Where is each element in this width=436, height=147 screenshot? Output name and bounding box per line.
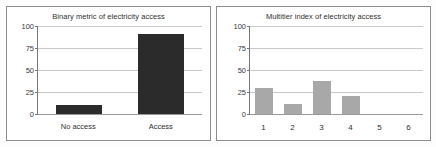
- bar-access[interactable]: [138, 34, 184, 114]
- x-axis-labels: No accessAccess: [37, 122, 202, 131]
- y-tick-mark-0: [35, 114, 38, 115]
- gridline-0: [250, 114, 423, 115]
- chart-title: Binary metric of electricity access: [7, 12, 210, 21]
- bar-slot: [279, 26, 308, 114]
- y-tick-label-75: 75: [26, 44, 34, 53]
- bar-slot: [308, 26, 337, 114]
- x-axis-label: 1: [249, 123, 278, 132]
- bar-group: [38, 26, 202, 114]
- y-tick-label-50: 50: [26, 66, 34, 75]
- chart-panel-multitier: Multitier index of electricity access 02…: [216, 6, 431, 141]
- chart-title: Multitier index of electricity access: [217, 12, 430, 21]
- y-tick-label-0: 0: [30, 110, 34, 119]
- plot-area: 0255075100: [37, 26, 202, 115]
- chart-panel-binary: Binary metric of electricity access 0255…: [6, 6, 211, 141]
- bar-slot: [365, 26, 394, 114]
- x-axis-label: 6: [394, 123, 423, 132]
- figure-container: Binary metric of electricity access 0255…: [0, 0, 436, 147]
- x-axis-label: 2: [278, 123, 307, 132]
- y-tick-label-75: 75: [238, 44, 246, 53]
- bar-3[interactable]: [313, 81, 331, 114]
- y-tick-label-100: 100: [21, 22, 34, 31]
- x-axis-label: 5: [365, 123, 394, 132]
- bar-slot: [250, 26, 279, 114]
- bar-slot: [336, 26, 365, 114]
- bar-slot: [394, 26, 423, 114]
- y-tick-label-25: 25: [26, 88, 34, 97]
- gridline-0: [38, 114, 202, 115]
- y-tick-label-100: 100: [233, 22, 246, 31]
- bar-4[interactable]: [342, 96, 360, 114]
- x-axis-label: 4: [336, 123, 365, 132]
- bar-group: [250, 26, 423, 114]
- bar-slot: [38, 26, 120, 114]
- y-tick-label-25: 25: [238, 88, 246, 97]
- y-tick-label-50: 50: [238, 66, 246, 75]
- multitier-chart: Multitier index of electricity access 02…: [217, 7, 430, 140]
- x-axis-labels: 123456: [249, 123, 423, 132]
- bar-no-access[interactable]: [56, 105, 102, 114]
- bar-1[interactable]: [255, 88, 273, 114]
- y-tick-label-0: 0: [242, 110, 246, 119]
- y-tick-mark-0: [247, 114, 250, 115]
- x-axis-label: Access: [120, 122, 203, 131]
- x-axis-label: No access: [37, 122, 120, 131]
- plot-area: 0255075100: [249, 26, 423, 115]
- binary-chart: Binary metric of electricity access 0255…: [7, 7, 210, 140]
- x-axis-label: 3: [307, 123, 336, 132]
- bar-2[interactable]: [284, 104, 302, 114]
- bar-slot: [120, 26, 202, 114]
